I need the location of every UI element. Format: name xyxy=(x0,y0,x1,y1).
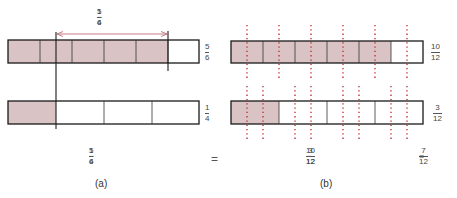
bar-a-sixths xyxy=(8,40,199,63)
arrow-label: 56 − 14 xyxy=(97,12,102,22)
result-b: = 712 xyxy=(419,151,424,161)
label-three-twelfths: 312 xyxy=(433,103,442,123)
bar-a-quarters xyxy=(8,101,199,124)
caption-a: (a) xyxy=(95,178,107,189)
fraction: 712 xyxy=(419,146,428,166)
label-ten-twelfths: 1012 xyxy=(431,42,440,62)
difference-arrow xyxy=(57,32,167,37)
expression-b: 1012 − 312 xyxy=(306,151,311,161)
equals-sign: = xyxy=(211,152,218,166)
caption-b: (b) xyxy=(320,178,332,189)
bar-b-twelfths-bottom xyxy=(231,101,423,124)
label-five-sixths: 56 xyxy=(205,42,209,62)
fraction: 312 xyxy=(306,146,315,166)
fraction: 14 xyxy=(89,146,93,166)
bar-b-twelfths-top xyxy=(231,41,423,63)
fraction: 14 xyxy=(97,7,101,27)
fraction-diagram xyxy=(0,0,457,198)
expression-a: 56 − 14 xyxy=(89,151,94,161)
label-one-quarter: 14 xyxy=(205,103,209,123)
